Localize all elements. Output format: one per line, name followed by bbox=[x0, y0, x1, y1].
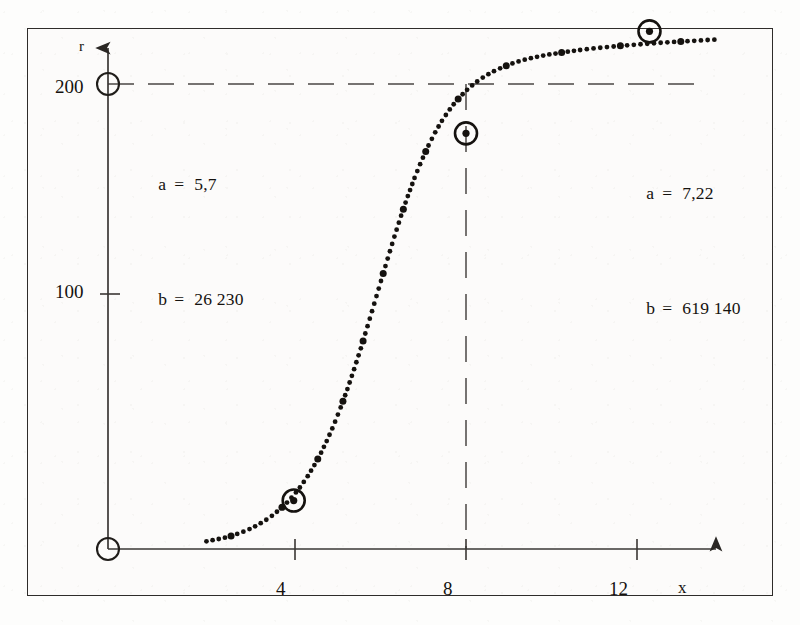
data-dot bbox=[699, 38, 704, 43]
data-dot bbox=[345, 387, 350, 392]
data-dot bbox=[572, 48, 577, 53]
data-dot bbox=[712, 37, 717, 42]
data-dot bbox=[396, 220, 401, 225]
data-dot bbox=[356, 353, 361, 358]
annotation-right-line-a: a=7,22 bbox=[628, 159, 741, 228]
data-dot bbox=[516, 59, 521, 64]
data-dot bbox=[372, 301, 377, 306]
data-dot bbox=[436, 124, 441, 129]
data-dot bbox=[470, 83, 475, 88]
data-dot bbox=[672, 40, 677, 45]
data-dot bbox=[638, 42, 643, 47]
data-dot bbox=[617, 42, 624, 49]
annotation-left-line-a: a=5,7 bbox=[140, 150, 244, 219]
annotation-left-value-b: 26 230 bbox=[194, 289, 243, 309]
data-dot bbox=[275, 509, 280, 514]
data-dot bbox=[400, 206, 407, 213]
data-dot bbox=[598, 45, 603, 50]
annotation-left-equals-a: = bbox=[174, 173, 194, 196]
data-dot bbox=[223, 535, 228, 540]
data-dot bbox=[285, 500, 290, 505]
data-dot bbox=[465, 87, 470, 92]
x-axis-label: x bbox=[678, 578, 687, 598]
highlight-dot-2 bbox=[462, 130, 469, 137]
data-dot bbox=[443, 113, 448, 118]
data-dot bbox=[591, 46, 596, 51]
data-dot bbox=[247, 527, 252, 532]
data-dot bbox=[541, 53, 546, 58]
annotation-right-value-b: 619 140 bbox=[682, 298, 740, 318]
data-dot bbox=[405, 194, 410, 199]
data-dot bbox=[322, 444, 327, 449]
data-dot bbox=[692, 38, 697, 43]
data-dot bbox=[333, 419, 338, 424]
data-dot bbox=[383, 264, 388, 269]
data-dot bbox=[685, 39, 690, 44]
data-dot bbox=[390, 242, 395, 247]
data-dot bbox=[403, 200, 408, 205]
data-dot bbox=[363, 331, 368, 336]
data-dot bbox=[241, 529, 246, 534]
data-dot bbox=[605, 45, 610, 50]
data-dot bbox=[528, 56, 533, 61]
data-dot bbox=[558, 49, 565, 56]
data-dot bbox=[625, 43, 630, 48]
annotation-left-symbol-a: a bbox=[158, 173, 174, 196]
annotation-left-value-a: 5,7 bbox=[194, 174, 216, 194]
data-dot bbox=[301, 480, 306, 485]
data-dot bbox=[451, 102, 456, 107]
data-dot bbox=[235, 531, 240, 536]
annotation-right-line-b: b=619 140 bbox=[628, 274, 741, 343]
highlight-dot-3 bbox=[646, 28, 653, 35]
data-dot bbox=[338, 405, 343, 410]
y-tick-label-100: 100 bbox=[55, 281, 84, 303]
data-dot bbox=[264, 517, 269, 522]
data-dot bbox=[410, 182, 415, 187]
data-dot bbox=[312, 463, 317, 468]
data-dot bbox=[354, 360, 359, 365]
data-dot bbox=[429, 136, 434, 141]
data-dot bbox=[418, 162, 423, 167]
data-dot bbox=[455, 96, 462, 103]
data-dot bbox=[503, 62, 510, 69]
data-dot bbox=[422, 148, 429, 155]
data-dot bbox=[376, 286, 381, 291]
data-dot bbox=[677, 38, 684, 45]
data-dot bbox=[210, 538, 215, 543]
data-dot bbox=[314, 455, 321, 462]
highlight-dot-1 bbox=[290, 497, 297, 504]
data-dot bbox=[330, 426, 335, 431]
data-dot bbox=[553, 51, 558, 56]
data-dot bbox=[358, 346, 363, 351]
data-dot bbox=[319, 450, 324, 455]
annotation-right-equals-a: = bbox=[662, 182, 682, 205]
annotation-left-equals-b: = bbox=[174, 288, 194, 311]
data-dot bbox=[385, 256, 390, 261]
data-dot bbox=[631, 42, 636, 47]
annotation-right-value-a: 7,22 bbox=[682, 183, 713, 203]
annotation-left-symbol-b: b bbox=[158, 288, 174, 311]
data-dot bbox=[399, 213, 404, 218]
data-dot bbox=[705, 38, 710, 43]
data-dot bbox=[415, 169, 420, 174]
highlighted-point-markers bbox=[283, 20, 661, 511]
data-dot bbox=[216, 537, 221, 542]
data-dot bbox=[360, 337, 367, 344]
data-dot bbox=[547, 52, 552, 57]
annotation-left: a=5,7 b=26 230 bbox=[140, 104, 244, 357]
data-dot bbox=[408, 188, 413, 193]
data-dot bbox=[388, 249, 393, 254]
data-dot bbox=[367, 316, 372, 321]
data-dot bbox=[565, 49, 570, 54]
data-dot bbox=[412, 176, 417, 181]
data-dot bbox=[480, 75, 485, 80]
data-dot bbox=[365, 324, 370, 329]
data-dot bbox=[228, 532, 235, 539]
y-tick-label-200: 200 bbox=[55, 76, 84, 98]
y-axis-label: r bbox=[79, 38, 84, 55]
data-dot bbox=[460, 92, 465, 97]
data-dot bbox=[492, 69, 497, 74]
data-dot bbox=[433, 130, 438, 135]
annotation-right-symbol-a: a bbox=[646, 182, 662, 205]
data-dot bbox=[394, 227, 399, 232]
